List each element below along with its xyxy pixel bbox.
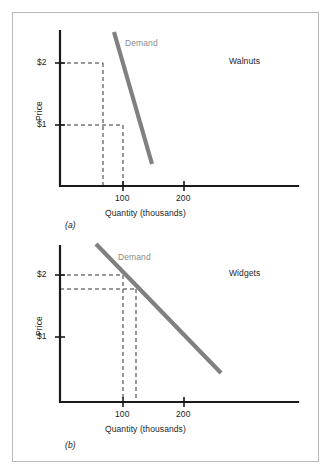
widgets-ytick-label-2: $2 — [37, 270, 47, 279]
walnuts-ytick-label-2: $2 — [37, 58, 47, 67]
widgets-xtick-label-100: 100 — [115, 410, 129, 419]
widgets-demand-label: Demand — [118, 253, 151, 262]
chart-panel-walnuts: $2 $1 100 200 Price Quantity (thousands)… — [13, 13, 320, 238]
widgets-demand-curve — [96, 244, 221, 373]
walnuts-xtick-label-200: 200 — [176, 194, 190, 203]
walnuts-plot-canvas — [13, 13, 320, 238]
widgets-guide-lines — [60, 275, 136, 402]
walnuts-product-label: Walnuts — [229, 57, 260, 66]
walnuts-guide-lines — [60, 63, 123, 186]
walnuts-x-axis-title: Quantity (thousands) — [105, 209, 186, 218]
walnuts-axes — [60, 31, 298, 186]
widgets-y-axis-title: Price — [35, 316, 44, 336]
panel-label-b: (b) — [65, 441, 76, 450]
widgets-x-axis-title: Quantity (thousands) — [105, 425, 186, 434]
walnuts-ytick-label-1: $1 — [37, 120, 47, 129]
walnuts-y-axis-title: Price — [35, 101, 44, 121]
figure-border: $2 $1 100 200 Price Quantity (thousands)… — [12, 12, 319, 462]
widgets-product-label: Widgets — [229, 269, 260, 278]
walnuts-demand-curve — [114, 32, 152, 164]
widgets-axes — [60, 246, 298, 402]
widgets-xtick-label-200: 200 — [176, 410, 190, 419]
walnuts-demand-label: Demand — [125, 39, 158, 48]
walnuts-xtick-label-100: 100 — [115, 194, 129, 203]
chart-panel-widgets: $2 $1 100 200 Price Quantity (thousands)… — [13, 226, 320, 463]
